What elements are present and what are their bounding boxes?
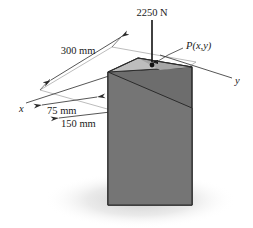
load-point-marker — [150, 63, 155, 68]
axis-label-y: y — [234, 75, 240, 86]
force-label: 2250 N — [136, 7, 168, 18]
axis-label-x: x — [18, 103, 24, 114]
dimension-150mm-label: 150 mm — [61, 118, 96, 129]
dimension-300mm-label: 300 mm — [61, 45, 96, 56]
prism-diagram: 2250 N P(x,y) 300 mm 75 mm 150 mm x y — [0, 0, 253, 228]
dimension-75mm-label: 75 mm — [47, 105, 76, 116]
axis-line-x — [26, 75, 112, 103]
figure-container: 2250 N P(x,y) 300 mm 75 mm 150 mm x y — [0, 0, 253, 228]
point-label: P(x,y) — [185, 40, 212, 52]
